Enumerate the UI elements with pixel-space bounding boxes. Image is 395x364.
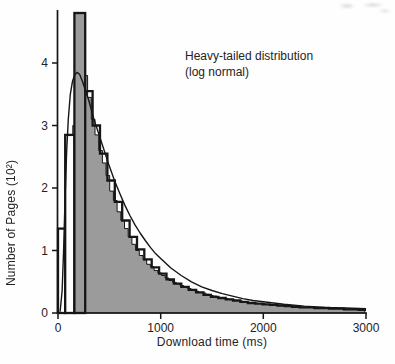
chart-annotation: Heavy-tailed distribution (log normal) [185,48,313,80]
y-tick-label: 1 [41,244,48,258]
annotation-line1: Heavy-tailed distribution [185,48,313,64]
y-tick-label: 2 [41,181,48,195]
histogram-bar [74,13,85,313]
x-tick-label: 0 [55,321,62,335]
x-axis-label: Download time (ms) [57,335,367,349]
y-tick-label: 3 [41,119,48,133]
annotation-line2: (log normal) [185,64,313,80]
statistics-figure: 012340100020003000 Heavy-tailed distribu… [0,0,395,364]
y-tick-label: 4 [41,56,48,70]
y-axis-label: Number of Pages (10²) [4,106,18,286]
scan-artifact [335,1,393,16]
x-tick-label: 1000 [147,321,174,335]
y-tick-label: 0 [41,306,48,320]
x-tick-label: 2000 [250,321,277,335]
x-tick-label: 3000 [353,321,380,335]
